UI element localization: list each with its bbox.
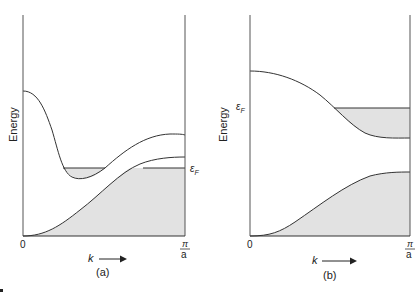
panel-b-x-axis-label: k <box>312 254 318 266</box>
panel-a-lower-band-fill <box>23 168 185 236</box>
panel-b-x-tick-pi: π <box>407 239 414 249</box>
panel-b-x-tick-zero: 0 <box>247 239 253 250</box>
panel-a-arrow-icon <box>120 256 127 263</box>
panel-a-upper-band-curve <box>23 91 185 179</box>
panel-b-fermi-label: εF <box>236 101 245 114</box>
panel-a-x-tick-zero: 0 <box>20 239 26 250</box>
panel-b: Energy εF 0 π a k (b) <box>217 15 415 281</box>
panel-a-x-axis-label: k <box>88 252 94 264</box>
panel-b-caption: (b) <box>323 269 336 281</box>
panel-b-upper-band-fill <box>334 108 410 138</box>
band-structure-figure: Energy εF 0 π a k (a) Energy εF 0 π <box>0 0 418 295</box>
panel-b-y-axis-label: Energy <box>217 107 229 142</box>
panel-a-x-tick-pi: π <box>182 239 189 249</box>
panel-a-fermi-label: εF <box>190 163 199 176</box>
corner-mark <box>0 289 3 292</box>
panel-b-x-tick-a: a <box>406 249 412 260</box>
panel-b-arrow-icon <box>350 258 357 265</box>
panel-a-caption: (a) <box>96 266 109 278</box>
panel-a-y-axis-label: Energy <box>7 107 19 142</box>
panel-a-upper-band-pocket-fill <box>63 168 105 179</box>
panel-b-lower-band-fill <box>250 172 410 236</box>
panel-a-x-tick-a: a <box>181 249 187 260</box>
panel-a: Energy εF 0 π a k (a) <box>7 15 199 278</box>
